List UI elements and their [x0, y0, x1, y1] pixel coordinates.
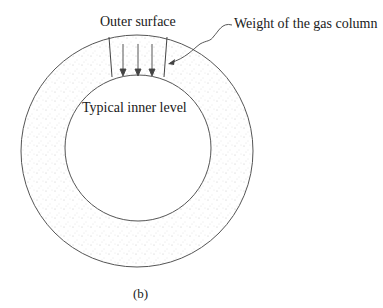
outer-surface-label: Outer surface: [100, 14, 176, 30]
inner-level-label: Typical inner level: [82, 100, 187, 116]
stippled-gas-layer: [0, 0, 383, 308]
figure-caption: (b): [133, 286, 148, 302]
weight-column-label: Weight of the gas column: [234, 16, 378, 32]
shell-diagram: [0, 0, 383, 308]
